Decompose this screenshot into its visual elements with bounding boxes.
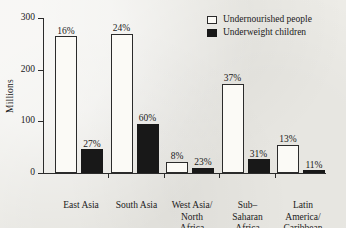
bar-chart: 0100200300 Millions 16%27%24%60%8%23%37%… xyxy=(0,0,346,228)
bar-underweight-children[interactable]: 60% xyxy=(137,124,159,173)
bar-underweight-children[interactable]: 31% xyxy=(248,159,270,173)
chart-legend: Undernourished peopleUnderweight childre… xyxy=(207,13,312,39)
bar-group: 13%11% xyxy=(277,18,329,173)
bar-value-label: 37% xyxy=(224,74,241,84)
plot-area: 0100200300 Millions 16%27%24%60%8%23%37%… xyxy=(43,18,326,174)
bar-undernourished-people[interactable]: 8% xyxy=(166,162,188,173)
y-tick-label: 200 xyxy=(21,65,35,75)
y-tick-label: 0 xyxy=(30,168,35,178)
x-axis-category-label: Latin America/ Caribbean xyxy=(268,200,338,228)
bar-value-label: 31% xyxy=(250,150,267,160)
x-tick-mark xyxy=(108,174,109,178)
bar-value-label: 13% xyxy=(279,135,296,145)
bar-value-label: 23% xyxy=(194,158,211,168)
bar-underweight-children[interactable]: 27% xyxy=(81,149,103,173)
bar-value-label: 60% xyxy=(139,114,156,124)
dark-square-swatch xyxy=(207,29,217,37)
y-tick-label: 300 xyxy=(21,13,35,23)
legend-item-label: Underweight children xyxy=(223,26,306,39)
bar-value-label: 11% xyxy=(305,161,322,171)
bar-underweight-children[interactable]: 11% xyxy=(303,170,325,173)
bar-value-label: 27% xyxy=(83,140,100,150)
bar-value-label: 8% xyxy=(171,152,184,162)
legend-item[interactable]: Underweight children xyxy=(207,26,312,39)
y-tick-label: 100 xyxy=(21,117,35,127)
bar-group: 24%60% xyxy=(111,18,163,173)
legend-item[interactable]: Undernourished people xyxy=(207,13,312,26)
light-square-swatch xyxy=(207,16,217,24)
bar-undernourished-people[interactable]: 24% xyxy=(111,34,133,174)
bar-value-label: 16% xyxy=(57,27,74,37)
bar-group: 8%23% xyxy=(166,18,218,173)
bar-value-label: 24% xyxy=(113,24,130,34)
legend-item-label: Undernourished people xyxy=(223,13,312,26)
bar-group: 16%27% xyxy=(55,18,107,173)
bar-undernourished-people[interactable]: 37% xyxy=(222,84,244,173)
bar-groups: 16%27%24%60%8%23%37%31%13%11% xyxy=(43,18,326,174)
x-tick-mark xyxy=(219,174,220,178)
bar-undernourished-people[interactable]: 13% xyxy=(277,145,299,173)
bar-group: 37%31% xyxy=(222,18,274,173)
bar-underweight-children[interactable]: 23% xyxy=(192,168,214,173)
x-tick-mark xyxy=(164,174,165,178)
bar-undernourished-people[interactable]: 16% xyxy=(55,36,77,173)
y-axis-title: Millions xyxy=(5,79,15,113)
x-tick-mark xyxy=(275,174,276,178)
